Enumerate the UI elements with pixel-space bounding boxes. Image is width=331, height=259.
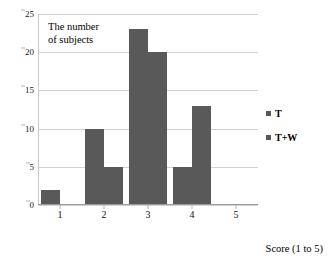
chart-legend: TT+W — [266, 108, 297, 143]
y-tick-label: 5 — [30, 162, 35, 171]
legend-item[interactable]: T — [266, 108, 297, 119]
bar-group — [126, 14, 170, 205]
legend-swatch-icon — [266, 135, 271, 140]
bar-group — [214, 14, 258, 205]
y-tick-mark — [26, 162, 30, 163]
x-tick-label: 2 — [102, 209, 107, 220]
y-tick-mark — [21, 10, 25, 11]
legend-item-label: T+W — [275, 132, 297, 143]
y-tick-label: 15 — [25, 86, 34, 95]
legend-item[interactable]: T+W — [266, 132, 297, 143]
y-tick-label: 10 — [25, 124, 34, 133]
y-tick-mark — [21, 48, 25, 49]
y-tick-mark — [21, 124, 25, 125]
y-tick-label: 0 — [30, 201, 35, 210]
y-tick-mark — [26, 201, 30, 202]
bar-group — [170, 14, 214, 205]
bar — [41, 190, 60, 205]
bar — [85, 129, 104, 205]
bar-chart: 0510152025 The number of subjects 12345 … — [0, 0, 331, 259]
x-tick-label: 4 — [190, 209, 195, 220]
bar — [129, 29, 148, 205]
y-tick-label: 20 — [25, 48, 34, 57]
bar — [173, 167, 192, 205]
legend-item-label: T — [275, 108, 282, 119]
x-tick-label: 1 — [58, 209, 63, 220]
y-tick-mark — [21, 86, 25, 87]
bar — [104, 167, 123, 205]
x-axis-title: Score (1 to 5) — [266, 243, 323, 254]
x-tick-label: 3 — [146, 209, 151, 220]
y-tick-label: 25 — [25, 10, 34, 19]
x-tick-label: 5 — [234, 209, 239, 220]
y-axis-title: The number of subjects — [48, 20, 99, 46]
legend-swatch-icon — [266, 111, 271, 116]
bar — [148, 52, 167, 205]
bar — [192, 106, 211, 205]
